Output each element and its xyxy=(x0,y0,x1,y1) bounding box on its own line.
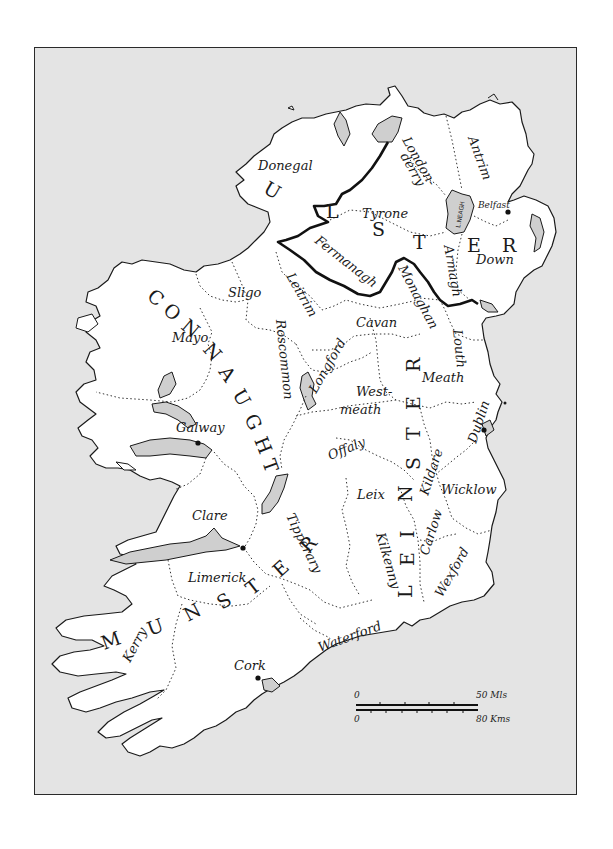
label-limerick: Limerick xyxy=(187,570,246,585)
scale-km-zero: 0 xyxy=(354,714,360,724)
label-wicklow: Wicklow xyxy=(441,482,497,497)
svg-text:T: T xyxy=(402,427,424,440)
label-sligo: Sligo xyxy=(228,285,262,300)
label-clare: Clare xyxy=(192,508,228,523)
city-dot-limerick xyxy=(240,545,245,550)
svg-text:L: L xyxy=(326,200,339,222)
island-tory xyxy=(288,106,294,110)
svg-text:S: S xyxy=(372,218,385,240)
scale-miles-zero: 0 xyxy=(354,690,360,700)
svg-text:S: S xyxy=(402,457,424,470)
scale-bar: 0 50 Mls 0 80 Kms xyxy=(354,690,511,724)
svg-text:I: I xyxy=(396,530,418,538)
label-cavan: Cavan xyxy=(356,315,397,330)
label-cork: Cork xyxy=(234,658,266,673)
svg-text:E: E xyxy=(402,396,424,410)
scale-km-max: 80 Kms xyxy=(476,714,511,724)
ireland-map: Donegal London- derry Antrim Tyrone Ferm… xyxy=(0,0,613,849)
label-belfast: Belfast xyxy=(477,200,510,210)
island-rathlin xyxy=(488,94,498,100)
label-donegal: Donegal xyxy=(257,158,313,173)
label-tyrone: Tyrone xyxy=(362,206,408,221)
scale-miles-max: 50 Mls xyxy=(476,690,507,700)
svg-text:T: T xyxy=(413,231,426,253)
svg-text:E: E xyxy=(396,552,418,566)
label-westmeath-2: meath xyxy=(340,402,381,417)
label-westmeath-1: West- xyxy=(356,384,392,399)
svg-text:L: L xyxy=(394,585,416,598)
city-dot-galway xyxy=(195,440,200,445)
svg-text:N: N xyxy=(394,485,416,502)
island-lambay xyxy=(504,402,507,405)
svg-text:R: R xyxy=(502,234,517,256)
city-dot-cork xyxy=(255,675,260,680)
svg-text:R: R xyxy=(402,357,424,372)
svg-text:E: E xyxy=(467,234,481,256)
city-dot-belfast xyxy=(505,209,510,214)
label-meath: Meath xyxy=(421,370,464,385)
label-galway: Galway xyxy=(176,420,225,435)
label-leix: Leix xyxy=(356,487,385,502)
